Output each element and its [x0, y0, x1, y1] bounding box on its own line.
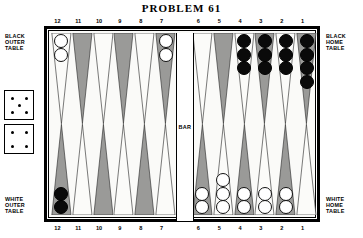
point-triangle — [134, 123, 155, 215]
checker-black[interactable] — [279, 34, 293, 48]
point-numbers-bottom-left: 121110987 — [47, 225, 172, 231]
point-number: 1 — [292, 18, 313, 24]
point-6[interactable] — [192, 123, 213, 215]
point-number: 5 — [209, 225, 230, 231]
quadrant-white-outer — [51, 123, 176, 215]
checker-white[interactable] — [237, 200, 251, 214]
die-pip — [25, 111, 28, 114]
point-6[interactable] — [192, 33, 213, 125]
checker-black[interactable] — [237, 48, 251, 62]
point-number: 9 — [109, 18, 130, 24]
point-number: 4 — [230, 225, 251, 231]
point-number: 11 — [68, 18, 89, 24]
die-pip — [11, 145, 14, 148]
label-black-outer-table: BLACK OUTER TABLE — [5, 33, 41, 52]
checker-white[interactable] — [159, 34, 173, 48]
point-number: 4 — [230, 18, 251, 24]
checker-black[interactable] — [237, 34, 251, 48]
point-triangle — [72, 33, 93, 125]
die-pip — [25, 145, 28, 148]
point-9[interactable] — [113, 123, 134, 215]
bar: BAR — [176, 33, 194, 221]
point-4[interactable] — [234, 123, 255, 215]
die-pip — [18, 104, 21, 107]
label-black-home-table: BLACK HOME TABLE — [326, 33, 362, 52]
point-8[interactable] — [134, 33, 155, 125]
point-number: 2 — [271, 18, 292, 24]
checker-white[interactable] — [159, 48, 173, 62]
point-10[interactable] — [93, 33, 114, 125]
checker-black[interactable] — [258, 48, 272, 62]
checker-black[interactable] — [279, 61, 293, 75]
point-7[interactable] — [155, 33, 176, 125]
point-8[interactable] — [134, 123, 155, 215]
checker-black[interactable] — [54, 187, 68, 201]
die-bottom — [4, 124, 34, 154]
checker-black[interactable] — [300, 61, 314, 75]
checker-black[interactable] — [300, 34, 314, 48]
point-number: 9 — [109, 225, 130, 231]
point-1[interactable] — [296, 123, 317, 215]
point-3[interactable] — [254, 123, 275, 215]
die-pip — [25, 97, 28, 100]
point-number: 8 — [130, 225, 151, 231]
point-number: 6 — [188, 225, 209, 231]
checker-black[interactable] — [237, 61, 251, 75]
checker-white[interactable] — [237, 187, 251, 201]
checker-white[interactable] — [54, 48, 68, 62]
quadrant-black-home — [192, 33, 317, 125]
die-top — [4, 90, 34, 120]
checker-white[interactable] — [195, 187, 209, 201]
point-number: 3 — [250, 225, 271, 231]
point-2[interactable] — [275, 123, 296, 215]
label-white-home-table: WHITE HOME TABLE — [326, 196, 362, 215]
quadrant-black-outer — [51, 33, 176, 125]
point-triangle — [93, 33, 114, 125]
point-number: 5 — [209, 18, 230, 24]
point-12[interactable] — [51, 123, 72, 215]
point-triangle — [113, 33, 134, 125]
point-numbers-bottom-right: 654321 — [188, 225, 313, 231]
die-pip — [11, 97, 14, 100]
point-number: 3 — [250, 18, 271, 24]
point-number: 7 — [151, 225, 172, 231]
die-pip — [11, 111, 14, 114]
point-11[interactable] — [72, 123, 93, 215]
point-number: 7 — [151, 18, 172, 24]
checker-white[interactable] — [279, 187, 293, 201]
point-triangle — [93, 123, 114, 215]
point-5[interactable] — [213, 33, 234, 125]
page-title: PROBLEM 61 — [0, 2, 363, 14]
point-triangle — [296, 123, 317, 215]
point-number: 8 — [130, 18, 151, 24]
checker-black[interactable] — [258, 34, 272, 48]
point-2[interactable] — [275, 33, 296, 125]
checker-white[interactable] — [258, 200, 272, 214]
point-12[interactable] — [51, 33, 72, 125]
checker-black[interactable] — [279, 48, 293, 62]
point-1[interactable] — [296, 33, 317, 125]
point-number: 6 — [188, 18, 209, 24]
point-11[interactable] — [72, 33, 93, 125]
point-triangle — [134, 33, 155, 125]
label-white-outer-table: WHITE OUTER TABLE — [5, 196, 41, 215]
checker-white[interactable] — [258, 187, 272, 201]
point-triangle — [192, 33, 213, 125]
checker-black[interactable] — [258, 61, 272, 75]
backgammon-board: BAR — [44, 26, 320, 222]
checker-black[interactable] — [300, 75, 314, 89]
checker-white[interactable] — [216, 187, 230, 201]
board-inner-frame: BAR — [48, 30, 316, 218]
point-numbers-top-left: 121110987 — [47, 18, 172, 24]
checker-white[interactable] — [279, 200, 293, 214]
checker-black[interactable] — [300, 48, 314, 62]
point-4[interactable] — [234, 33, 255, 125]
point-10[interactable] — [93, 123, 114, 215]
die-pip — [11, 131, 14, 134]
point-7[interactable] — [155, 123, 176, 215]
point-9[interactable] — [113, 33, 134, 125]
point-5[interactable] — [213, 123, 234, 215]
point-number: 11 — [68, 225, 89, 231]
point-3[interactable] — [254, 33, 275, 125]
quadrant-white-home — [192, 123, 317, 215]
